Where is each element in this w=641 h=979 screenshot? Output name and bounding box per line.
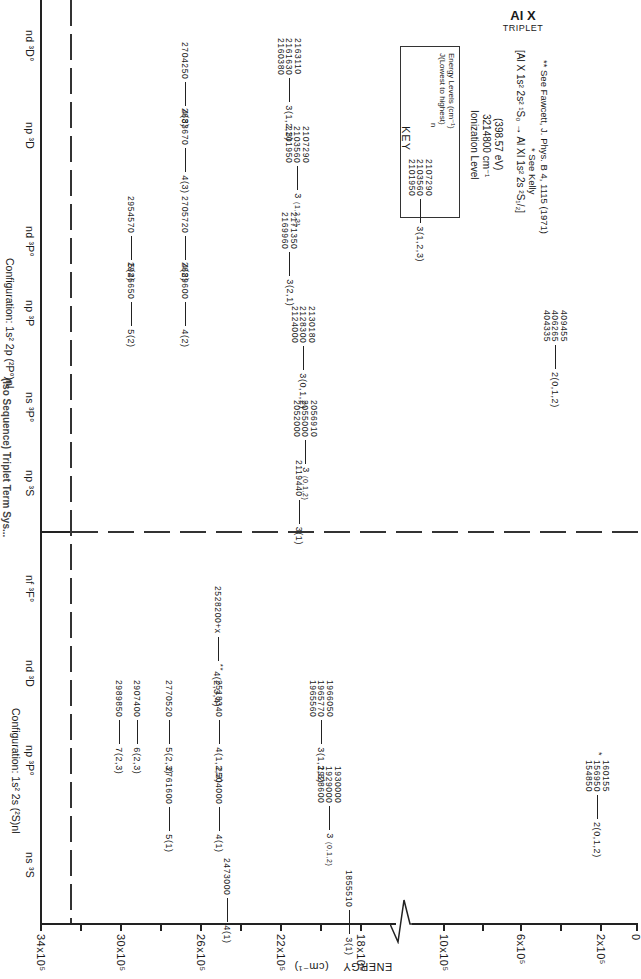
level-tag: 3(1) [345, 937, 354, 955]
column-header: np ³D [24, 122, 36, 149]
column-header: nd ³D [24, 660, 36, 687]
column-header: ns ³S [24, 852, 36, 878]
level-tag: 5(2) [127, 329, 136, 347]
level-bar [131, 302, 132, 326]
level-bar [185, 148, 186, 172]
axis-tick [80, 923, 82, 931]
level-bar [329, 806, 330, 830]
energy-level: 2056910205500020520003 (0,1,2) [293, 400, 319, 500]
axis-break-icon [390, 898, 416, 944]
note-fawcett: ** See Fawcett, J. Phys. B 4, 1115 (1971… [539, 60, 550, 234]
level-bar [169, 720, 170, 744]
energy-level: 1601551569501548502(0,1,2) [585, 760, 611, 858]
energy-level: 27057204(2) [181, 196, 190, 282]
page-header: (Iso Sequence) Triplet Term Sys... [1, 378, 12, 537]
axis-unit-label: (cm⁻¹) [294, 961, 329, 973]
energy-level: 18555103(1) [345, 870, 354, 956]
level-bar [227, 898, 228, 922]
level-tag: 3(2,1) [285, 279, 294, 306]
level-bar [289, 78, 290, 102]
axis-tick [200, 923, 202, 931]
level-bar [185, 236, 186, 260]
level-tag: 3(1) [295, 527, 304, 545]
level-bar [219, 807, 220, 831]
axis-tick-label: 30x10⁵ [115, 934, 127, 972]
column-header: np ³P [24, 300, 36, 327]
upper-configuration-label: Configuration: 1s² 2p (²P°)nl [4, 258, 16, 388]
axis-tick [482, 923, 484, 931]
energy-axis-line-left [40, 923, 396, 925]
axis-tick [360, 923, 362, 931]
level-tag: 6(2,3) [133, 747, 142, 774]
level-tag: 3(1,2,3) [285, 105, 294, 141]
level-tag: 3(1,2,3) [317, 747, 326, 783]
level-bar [219, 720, 220, 744]
level-bar [137, 720, 138, 744]
axis-tick [560, 923, 562, 931]
axis-tick-label: 10x10⁵ [438, 934, 450, 972]
ionization-limit-line [70, 0, 72, 924]
axis-tick [160, 923, 162, 931]
key-legend-energy: Energy Levels (cm⁻¹) [447, 53, 456, 129]
level-bar [349, 910, 350, 934]
level-tag: 3 (0,1,2) [325, 833, 335, 866]
energy-level: 27705205(2,3) [165, 680, 174, 774]
axis-tick-label: 6x10⁵ [515, 934, 527, 965]
level-tag: 4(2) [181, 263, 190, 281]
level-tag: 2(0,1,2) [593, 822, 602, 858]
ionization-label: Ionization Level [469, 110, 480, 180]
energy-level: 2163110216163021603803(1,2,3) [277, 38, 303, 141]
level-bar [169, 807, 170, 831]
axis-tick-label: 34x10⁵ [35, 934, 47, 972]
axis-tick [520, 923, 522, 931]
level-bar [131, 236, 132, 260]
level-tag: 3 (1,2,3) [293, 193, 303, 226]
axis-tick [40, 923, 42, 931]
axis-tick [443, 923, 445, 931]
axis-title-label: ENERGY [343, 961, 392, 973]
level-bar [305, 440, 306, 464]
axis-tick [120, 923, 122, 931]
energy-axis-left-border [40, 0, 42, 924]
level-bar [297, 166, 298, 190]
level-bar [289, 252, 290, 276]
level-value: 2954570 [127, 196, 136, 233]
level-tag: 5(2) [127, 263, 136, 281]
energy-level: 1966050196577019655603(1,2,3) [309, 680, 335, 783]
axis-tick-label: 0 [630, 934, 641, 941]
level-tag: 4(3) [181, 175, 190, 193]
level-bar [555, 345, 556, 369]
column-header: np ³S [24, 470, 36, 497]
level-tag: 4(1,2,3) [215, 747, 224, 783]
level-tag: 7(2,3) [115, 747, 124, 774]
level-tag: 4(1) [215, 834, 224, 852]
axis-tick [280, 923, 282, 931]
level-tag: 3(0,1,2) [299, 373, 308, 409]
energy-axis-line-right [412, 923, 638, 925]
key-legend-n: n [429, 123, 438, 127]
level-bar [597, 795, 598, 819]
ionization-ev: (398.57 eV) [493, 118, 504, 170]
note-kelly: * See Kelly [527, 148, 538, 194]
key-legend-j: J(Lowest to highest) [438, 53, 447, 125]
energy-level: 2528200+x**4(2,3,4) [213, 586, 225, 707]
axis-tick [320, 923, 322, 931]
star-marker: * [594, 752, 604, 756]
level-bar [420, 199, 421, 223]
key-example-level: 2107290210356021019503(1,2,3) [408, 159, 434, 262]
column-header: nf ³F° [24, 575, 36, 603]
key-box: 2107290210356021019503(1,2,3) J(Lowest t… [400, 46, 460, 218]
level-tag: 4(1) [223, 925, 232, 943]
axis-tick-label: 22x10⁵ [275, 934, 287, 972]
energy-level: 4094554062654043352(0,1,2) [543, 310, 569, 408]
element-label: Al X [488, 8, 558, 23]
level-bar [185, 82, 186, 106]
column-header: nd ³D° [24, 30, 36, 62]
ionization-transition: [Al X 1s² 2s² ¹S₀ → Al XI 1s² 2s ²S₁/₂] [515, 50, 526, 213]
energy-level: 24730004(1) [223, 858, 232, 944]
energy-level: 29074006(2,3) [133, 680, 142, 774]
configuration-divider [40, 531, 70, 533]
level-bar [299, 500, 300, 524]
column-header: np ³P° [24, 745, 36, 776]
energy-level: 29898507(2,3) [115, 680, 124, 774]
